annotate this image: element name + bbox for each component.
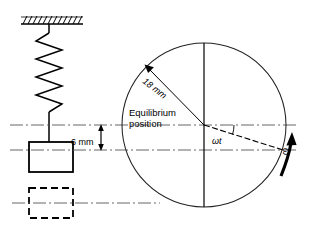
equilibrium-label-line2: position xyxy=(129,119,176,130)
phase-angle-label: ωt xyxy=(212,136,222,146)
coil-spring xyxy=(36,24,62,142)
displacement-value-label: 6 mm xyxy=(71,137,94,147)
equilibrium-label-line1: Equilibrium xyxy=(129,107,176,118)
mass-block xyxy=(29,142,73,172)
phase-angle-arc xyxy=(233,125,235,135)
figure-canvas: Equilibrium position 6 mm 18 mm ωt ω xyxy=(0,0,315,240)
hatched-ceiling-support xyxy=(21,16,83,24)
equilibrium-position-label: Equilibrium position xyxy=(129,108,176,130)
displacement-dimension-arrow xyxy=(98,124,104,151)
angular-velocity-label: ω xyxy=(281,148,291,155)
